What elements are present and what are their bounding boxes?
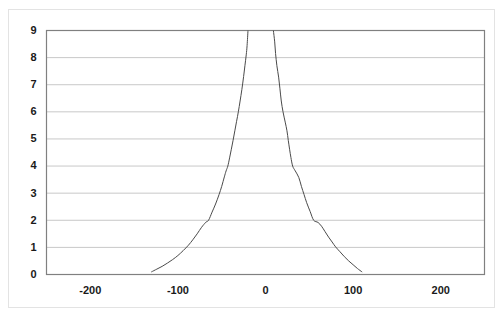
y-tick-label: 2 [30, 214, 36, 226]
plot-background [47, 31, 485, 275]
x-tick-label: 100 [344, 284, 362, 296]
x-tick-label: 200 [432, 284, 450, 296]
y-tick-label: 4 [30, 159, 37, 171]
y-tick-label: 1 [30, 241, 36, 253]
y-tick-label: 9 [30, 24, 36, 36]
y-tick-label: 6 [30, 105, 36, 117]
x-tick-label: 0 [262, 284, 268, 296]
x-axis-tick-labels: -200-1000100200 [79, 284, 450, 296]
y-tick-label: 3 [30, 187, 36, 199]
y-tick-label: 0 [30, 268, 36, 280]
y-axis-tick-labels: 0123456789 [30, 24, 37, 280]
gridlines-horizontal [47, 31, 485, 275]
chart-figure: 0123456789 -200-1000100200 [0, 0, 503, 318]
y-tick-label: 7 [30, 78, 36, 90]
x-tick-label: -100 [167, 284, 189, 296]
y-tick-label: 5 [30, 132, 36, 144]
chart-canvas: 0123456789 -200-1000100200 [0, 0, 503, 318]
x-tick-label: -200 [79, 284, 101, 296]
y-tick-label: 8 [30, 51, 36, 63]
